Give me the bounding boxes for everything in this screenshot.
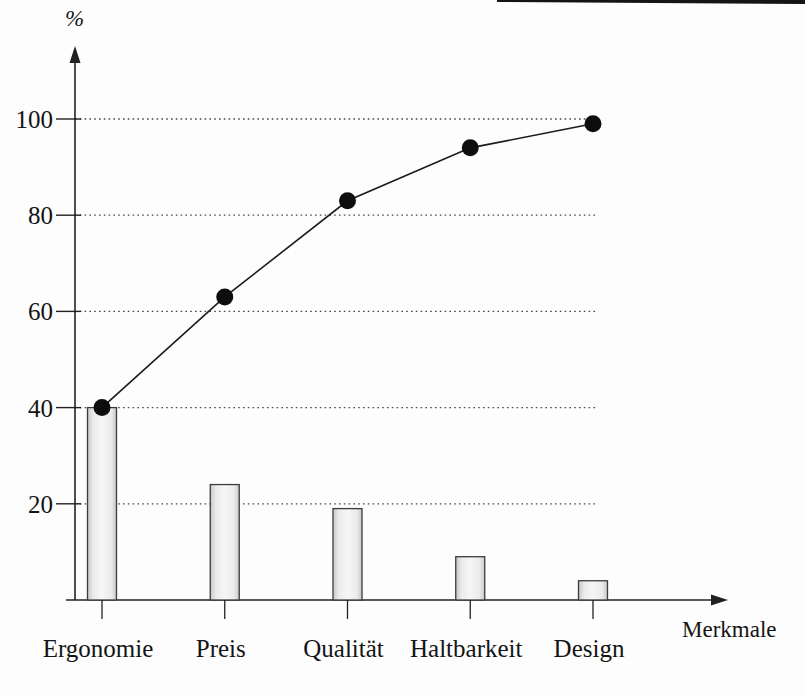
x-axis-arrow-icon bbox=[711, 595, 728, 606]
cumulative-dot-preis bbox=[216, 288, 233, 305]
pareto-chart-page: % Merkmale 10080604020ErgonomiePreisQual… bbox=[0, 0, 805, 696]
bar-preis bbox=[210, 485, 239, 600]
y-axis-arrow-icon bbox=[70, 46, 81, 63]
cumulative-dot-haltbarkeit bbox=[462, 139, 479, 156]
axes bbox=[66, 46, 728, 606]
y-tick-label-100: 100 bbox=[16, 106, 54, 133]
category-label-qualitaet: Qualität bbox=[303, 635, 384, 662]
category-label-preis: Preis bbox=[196, 635, 246, 662]
category-label-design: Design bbox=[554, 635, 625, 662]
bars: ErgonomiePreisQualitätHaltbarkeitDesign bbox=[43, 408, 625, 662]
cumulative-dot-design bbox=[585, 115, 602, 132]
category-label-ergonomie: Ergonomie bbox=[43, 635, 154, 662]
y-tick-label-80: 80 bbox=[28, 202, 53, 229]
cumulative-dot-qualitaet bbox=[339, 192, 356, 209]
bar-qualitaet bbox=[333, 509, 362, 600]
y-tick-label-60: 60 bbox=[28, 298, 53, 325]
cumulative-dot-ergonomie bbox=[94, 399, 111, 416]
y-tick-label-20: 20 bbox=[28, 491, 53, 518]
cumulative-series bbox=[94, 115, 602, 416]
y-tick-label-40: 40 bbox=[28, 395, 53, 422]
bar-design bbox=[579, 581, 608, 600]
bar-ergonomie bbox=[88, 408, 117, 600]
category-label-haltbarkeit: Haltbarkeit bbox=[410, 635, 523, 662]
cumulative-line bbox=[102, 124, 593, 408]
pareto-chart: 10080604020ErgonomiePreisQualitätHaltbar… bbox=[0, 0, 805, 696]
bar-haltbarkeit bbox=[456, 557, 485, 600]
